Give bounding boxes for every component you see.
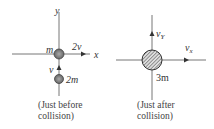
x-axis-label: x <box>93 49 99 60</box>
collision-diagram: y x m 2v v 2m vY vx 3m <box>0 0 214 129</box>
caption-after-line2: collision) <box>137 111 173 121</box>
arrow-vy-icon <box>150 31 155 36</box>
arrow-v-icon <box>57 65 62 70</box>
mass-m-ball <box>54 49 64 59</box>
caption-before-line1: (Just before <box>38 100 83 110</box>
arrow-vx-icon <box>184 58 189 63</box>
mass-3m-label: 3m <box>156 72 169 83</box>
before-collision-panel: y x m 2v v 2m <box>12 5 99 96</box>
mass-2m-label: 2m <box>66 74 78 85</box>
mass-3m-ball <box>142 50 162 70</box>
velocity-vy-label: vY <box>156 28 165 41</box>
caption-after-line1: (Just after <box>137 100 175 110</box>
velocity-v-label: v <box>49 64 54 75</box>
mass-m-label: m <box>46 44 53 55</box>
caption-before-line2: collision) <box>38 111 74 121</box>
velocity-2v-label: 2v <box>72 41 82 52</box>
velocity-vx-label: vx <box>185 42 193 55</box>
y-axis-label: y <box>54 5 60 16</box>
after-collision-panel: vY vx 3m <box>116 15 206 100</box>
caption-after: (Just after collision) <box>137 100 175 122</box>
arrow-2v-icon <box>81 52 86 57</box>
caption-before: (Just before collision) <box>38 100 83 122</box>
mass-2m-ball <box>55 75 64 84</box>
